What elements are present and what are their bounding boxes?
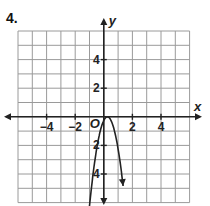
- axes: xy: [4, 13, 202, 205]
- x-tick-label: −2: [68, 120, 82, 134]
- origin-label: O: [90, 116, 100, 131]
- y-axis-up-arrow-icon: [100, 18, 107, 25]
- x-axis-label: x: [193, 99, 202, 114]
- y-tick-label: 2: [93, 81, 100, 95]
- coordinate-plane: xy −4−2244224O: [0, 0, 210, 206]
- x-tick-label: −4: [40, 120, 54, 134]
- x-axis-left-arrow-icon: [4, 113, 11, 120]
- y-tick-label: 4: [93, 53, 100, 67]
- y-axis-label: y: [108, 13, 117, 28]
- x-axis-right-arrow-icon: [195, 113, 202, 120]
- x-tick-label: 4: [158, 120, 165, 134]
- x-tick-label: 2: [129, 120, 136, 134]
- y-axis-down-arrow-icon: [100, 198, 107, 205]
